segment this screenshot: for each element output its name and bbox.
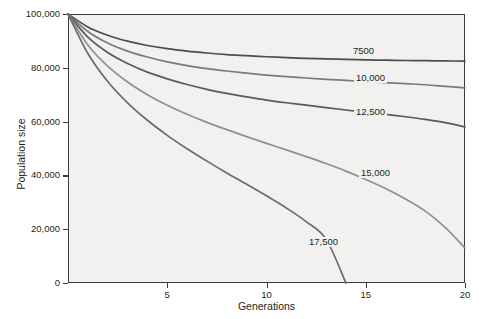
series-label-12500: 12,500: [354, 107, 387, 117]
chart-figure: 0 20,000 40,000 60,000 80,000 100,000 5 …: [0, 0, 485, 319]
ytick-mark-100000: [63, 14, 68, 15]
plot-area: [68, 14, 465, 283]
series-label-7500: 7500: [351, 46, 376, 56]
series-label-15000: 15,000: [359, 168, 392, 178]
ytick-label-80000: 80,000: [0, 63, 60, 73]
xtick-label-20: 20: [460, 290, 471, 300]
xtick-mark-10: [267, 283, 268, 288]
ytick-label-40000: 40,000: [0, 170, 60, 180]
ytick-mark-20000: [63, 229, 68, 230]
ytick-mark-60000: [63, 122, 68, 123]
xtick-label-15: 15: [360, 290, 371, 300]
ytick-mark-40000: [63, 175, 68, 176]
xtick-label-5: 5: [165, 290, 170, 300]
ytick-mark-0: [63, 283, 68, 284]
series-label-10000: 10,000: [354, 73, 387, 83]
series-label-17500: 17,500: [307, 237, 340, 247]
y-axis-title: Population size: [15, 99, 27, 209]
xtick-mark-15: [366, 283, 367, 288]
xtick-mark-5: [167, 283, 168, 288]
ytick-label-100000: 100,000: [0, 9, 60, 19]
ytick-label-60000: 60,000: [0, 117, 60, 127]
x-axis-title: Generations: [68, 300, 465, 312]
xtick-mark-20: [465, 283, 466, 288]
ytick-label-20000: 20,000: [0, 224, 60, 234]
xtick-label-10: 10: [261, 290, 272, 300]
ytick-mark-80000: [63, 68, 68, 69]
ytick-label-0: 0: [0, 278, 60, 288]
